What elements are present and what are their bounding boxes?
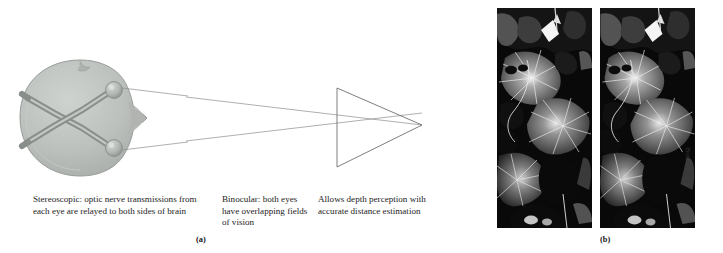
- panel-label-b: (b): [600, 235, 610, 244]
- binocular-field-overlap-triangle: [186, 52, 436, 182]
- figure-stereoscopic-vision: Stereoscopic: optic nerve transmissions …: [0, 0, 723, 253]
- field-of-vision-triangle: [337, 88, 422, 167]
- eye-upper: [106, 82, 123, 99]
- caption-stereoscopic: Stereoscopic: optic nerve transmissions …: [33, 194, 208, 217]
- stereoscopic-vision-head-diagram: [8, 52, 188, 182]
- stereo-photo-left: [497, 8, 592, 228]
- sight-lines-continued: [186, 97, 422, 141]
- stereo-photo-right: [600, 8, 695, 228]
- caption-binocular: Binocular: both eyes have overlapping fi…: [222, 194, 312, 229]
- head-outline-shape: [20, 60, 147, 176]
- panel-a: Stereoscopic: optic nerve transmissions …: [0, 0, 470, 253]
- photo-credit: Bob Western: [685, 148, 692, 186]
- eye-lower: [106, 140, 123, 157]
- caption-depth: Allows depth perception with accurate di…: [318, 194, 440, 217]
- panel-label-a: (a): [196, 235, 206, 244]
- panel-b: Bob Western (b): [470, 0, 723, 253]
